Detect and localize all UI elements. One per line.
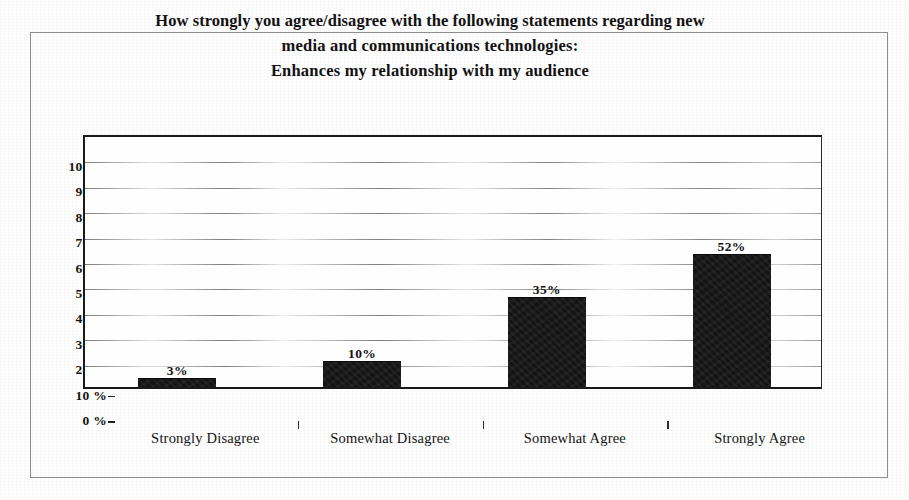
bar-value-label-somewhat-disagree: 10%	[348, 346, 376, 362]
bar-value-label-somewhat-agree: 35%	[533, 282, 561, 298]
x-category-label-somewhat-disagree: Somewhat Disagree	[330, 430, 450, 447]
bar-somewhat-disagree[interactable]	[323, 361, 401, 387]
chart-title: How strongly you agree/disagree with the…	[60, 8, 800, 83]
gridline-60	[85, 239, 821, 240]
x-tick-mark-2	[483, 421, 485, 429]
bar-value-label-strongly-disagree: 3%	[167, 363, 188, 379]
gridline-70	[85, 213, 821, 214]
x-category-label-somewhat-agree: Somewhat Agree	[524, 430, 626, 447]
y-tick-mark-0	[108, 421, 115, 423]
bar-strongly-disagree[interactable]	[138, 378, 216, 387]
x-tick-mark-1	[298, 421, 300, 429]
chart-page: How strongly you agree/disagree with the…	[0, 0, 909, 500]
y-tick-mark-10	[108, 396, 115, 398]
bar-somewhat-agree[interactable]	[508, 297, 586, 387]
x-tick-mark-3	[667, 421, 669, 429]
bar-value-label-strongly-agree: 52%	[718, 239, 746, 255]
plot-area: 3%10%35%52%	[83, 135, 822, 389]
chart-title-line-1: How strongly you agree/disagree with the…	[60, 8, 800, 33]
bar-strongly-agree[interactable]	[693, 254, 771, 387]
x-axis-category-labels: Strongly DisagreeSomewhat DisagreeSomewh…	[113, 430, 852, 456]
gridline-80	[85, 188, 821, 189]
chart-title-line-2: media and communications technologies:	[60, 33, 800, 58]
x-category-label-strongly-disagree: Strongly Disagree	[151, 430, 260, 447]
gridline-90	[85, 162, 821, 163]
chart-title-line-3: Enhances my relationship with my audienc…	[60, 58, 800, 83]
x-category-label-strongly-agree: Strongly Agree	[714, 430, 805, 447]
